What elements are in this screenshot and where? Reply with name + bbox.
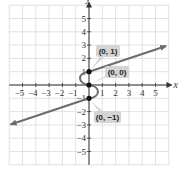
- points: [86, 69, 91, 101]
- x-tick-label: 3: [127, 88, 132, 98]
- y-tick-label: −2: [76, 107, 86, 117]
- data-point: [86, 82, 91, 87]
- x-tick-label: −5: [15, 88, 25, 98]
- x-tick-label: 4: [140, 88, 145, 98]
- callout-label: (0, 0): [108, 68, 127, 77]
- y-tick-label: −3: [76, 120, 86, 130]
- y-axis-label: y: [85, 0, 91, 4]
- y-tick-label: −5: [76, 147, 86, 157]
- x-tick-label: 5: [153, 88, 158, 98]
- callout-label: (0, 1): [99, 47, 118, 56]
- callout-label: (0, −1): [96, 113, 120, 122]
- y-tick-label: 2: [82, 53, 87, 63]
- callout-2: (0, −1): [91, 101, 121, 123]
- x-tick-label: 2: [113, 88, 118, 98]
- x-axis-label: x: [172, 79, 178, 90]
- x-tick-label: −2: [55, 88, 65, 98]
- y-tick-label: 3: [82, 40, 87, 50]
- x-tick-label: −4: [28, 88, 38, 98]
- graph: xy −5−4−3−2−112345 −5−4−3−2−112345 (0, 1…: [0, 0, 181, 171]
- data-point: [86, 69, 91, 74]
- y-tick-label: −4: [76, 133, 86, 143]
- y-tick-label: 4: [82, 27, 87, 37]
- y-tick-label: 5: [82, 14, 87, 24]
- x-tick-label: 1: [100, 88, 105, 98]
- axes: xy: [9, 0, 178, 165]
- x-tick-label: −3: [41, 88, 51, 98]
- data-point: [86, 96, 91, 101]
